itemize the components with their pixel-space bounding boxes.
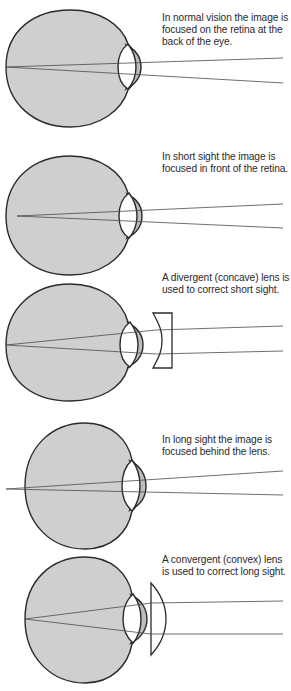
convex-lens [151,583,166,655]
caption-long-sight-corrected: A convergent (convex) lens is used to co… [162,554,290,578]
caption-long-sight: In long sight the image is focused behin… [162,434,290,458]
caption-short-sight-corrected: A divergent (concave) lens is used to co… [162,272,290,296]
panel-short-sight-corrected [6,284,283,401]
concave-lens [153,313,172,368]
caption-short-sight: In short sight the image is focused in f… [162,151,290,175]
eyeball [6,284,139,401]
caption-normal-vision: In normal vision the image is focused on… [162,12,290,48]
eye-diagram [0,0,291,691]
